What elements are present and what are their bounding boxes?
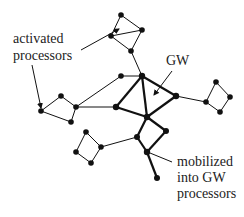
node	[83, 129, 89, 135]
thin-edges	[41, 15, 230, 163]
node	[98, 144, 104, 150]
node	[144, 149, 150, 155]
node	[154, 175, 160, 181]
node	[213, 79, 219, 85]
node	[113, 104, 119, 110]
gw-edges	[116, 76, 176, 178]
node	[38, 108, 44, 114]
node	[88, 160, 94, 166]
node	[68, 119, 74, 125]
node	[139, 73, 145, 79]
activated-pointer-arrow	[32, 65, 41, 108]
node	[227, 94, 233, 100]
mobilized-label-line3: processors	[177, 186, 236, 201]
node	[118, 73, 124, 79]
node	[144, 114, 150, 120]
node	[128, 48, 134, 54]
activated-pointer-arrow	[81, 29, 119, 50]
node	[73, 149, 79, 155]
global-workspace-diagram: activated processors GW mobilized into G…	[0, 0, 244, 217]
mobilized-pointer-line	[150, 153, 172, 162]
node	[134, 134, 140, 140]
activated-label-line2: processors	[13, 48, 72, 63]
activated-label-line1: activated	[13, 31, 64, 46]
node	[139, 27, 145, 33]
node	[58, 93, 64, 99]
gw-label: GW	[166, 53, 190, 68]
node	[203, 99, 209, 105]
node	[217, 109, 223, 115]
node	[163, 128, 169, 134]
mobilized-label-line1: mobilized	[177, 154, 233, 169]
node	[73, 104, 79, 110]
node	[118, 12, 124, 18]
node	[173, 93, 179, 99]
mobilized-label-line2: into GW	[177, 170, 226, 185]
